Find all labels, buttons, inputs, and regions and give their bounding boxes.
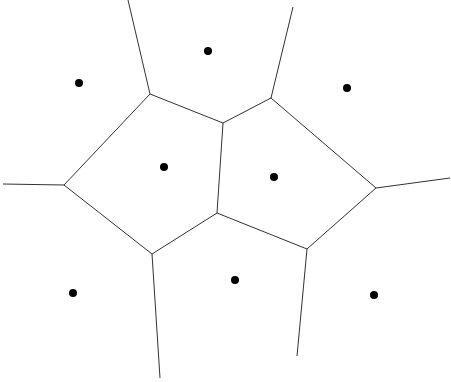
- site-point: [343, 84, 351, 92]
- site-points: [69, 47, 378, 299]
- voronoi-diagram: [0, 0, 451, 382]
- voronoi-edge: [217, 213, 307, 249]
- voronoi-edge: [152, 213, 217, 254]
- voronoi-edge: [150, 94, 223, 123]
- site-point: [370, 291, 378, 299]
- voronoi-edge: [307, 188, 376, 249]
- voronoi-edge: [271, 7, 293, 98]
- cell-edges: [3, 0, 450, 378]
- voronoi-edge: [64, 185, 152, 254]
- voronoi-edge: [128, 0, 150, 94]
- site-point: [75, 79, 83, 87]
- voronoi-edge: [152, 254, 160, 378]
- site-point: [69, 289, 77, 297]
- voronoi-edge: [271, 98, 376, 188]
- voronoi-svg: [0, 0, 451, 382]
- voronoi-edge: [64, 94, 150, 185]
- site-point: [160, 163, 168, 171]
- voronoi-edge: [297, 249, 307, 356]
- voronoi-edge: [223, 98, 271, 123]
- voronoi-edge: [217, 123, 223, 213]
- site-point: [204, 47, 212, 55]
- site-point: [270, 173, 278, 181]
- site-point: [231, 276, 239, 284]
- voronoi-edge: [376, 178, 450, 188]
- voronoi-edge: [3, 184, 64, 185]
